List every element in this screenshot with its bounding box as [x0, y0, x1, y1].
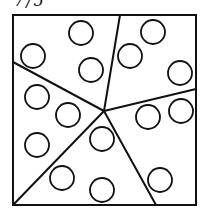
circle: [25, 133, 49, 157]
circle: [90, 127, 114, 151]
circle: [25, 85, 49, 109]
circle: [50, 166, 74, 190]
circle: [69, 21, 93, 45]
circle: [136, 105, 160, 129]
circle: [90, 178, 114, 202]
circle: [79, 58, 103, 82]
divider-top: [104, 15, 120, 111]
circle: [56, 103, 80, 127]
circle: [141, 20, 165, 44]
divider-bottom-right: [104, 111, 156, 205]
circle: [118, 44, 142, 68]
circle: [168, 61, 192, 85]
divider-right: [104, 89, 196, 111]
circle: [21, 44, 45, 68]
circle: [148, 168, 172, 192]
circle: [169, 99, 193, 123]
partitioned-square-diagram: [0, 0, 205, 216]
